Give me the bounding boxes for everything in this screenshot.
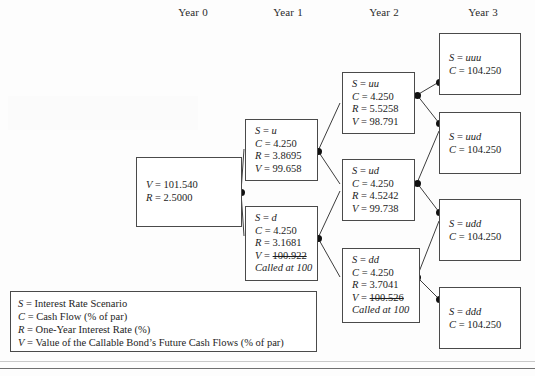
- node-u-r: R = 3.8695: [255, 150, 317, 163]
- node-ud-c: C = 4.250: [352, 178, 414, 191]
- diagram-canvas: Year 0 Year 1 Year 2 Year 3 V = 101.540: [0, 0, 535, 376]
- node-dd[interactable]: S = dd C = 4.250 R = 3.7041 V = 100.526 …: [342, 248, 420, 323]
- node-d-v: V = 100.922: [255, 250, 317, 263]
- node-udd-c: C = 104.250: [449, 231, 520, 244]
- node-uu-r: R = 5.5258: [352, 103, 414, 116]
- node-uu-c: C = 4.250: [352, 91, 414, 104]
- legend-row-s: S = Interest Rate Scenario: [18, 297, 316, 310]
- node-uuu-c: C = 104.250: [449, 65, 520, 78]
- column-header-year-2: Year 2: [339, 6, 429, 18]
- node-dd-call-note: Called at 100: [352, 304, 419, 317]
- node-u-v: V = 99.658: [255, 163, 317, 176]
- legend-row-c: C = Cash Flow (% of par): [18, 310, 316, 323]
- node-dd-s: S = dd: [352, 254, 419, 267]
- legend-box: S = Interest Rate Scenario C = Cash Flow…: [10, 291, 317, 352]
- node-ddd-c: C = 104.250: [449, 319, 520, 332]
- node-udd-s: S = udd: [449, 218, 520, 231]
- node-uud-s: S = uud: [449, 131, 520, 144]
- node-u-s: S = u: [255, 125, 317, 138]
- node-ddd[interactable]: S = ddd C = 104.250: [439, 287, 521, 349]
- node-root-r: R = 2.5000: [146, 192, 241, 205]
- node-ud-r: R = 4.5242: [352, 190, 414, 203]
- node-d-s: S = d: [255, 212, 317, 225]
- column-header-year-0: Year 0: [148, 6, 238, 18]
- node-d[interactable]: S = d C = 4.250 R = 3.1681 V = 100.922 C…: [245, 206, 318, 281]
- node-uud[interactable]: S = uud C = 104.250: [439, 112, 521, 174]
- node-udd[interactable]: S = udd C = 104.250: [439, 199, 521, 261]
- scan-bleed-artifact: [8, 96, 198, 130]
- branch-dot-uu: [414, 92, 421, 99]
- node-uu[interactable]: S = uu C = 4.250 R = 5.5258 V = 98.791: [342, 72, 415, 134]
- node-uuu-s: S = uuu: [449, 52, 520, 65]
- node-u-c: C = 4.250: [255, 138, 317, 151]
- node-u[interactable]: S = u C = 4.250 R = 3.8695 V = 99.658: [245, 119, 318, 181]
- node-ud-v: V = 99.738: [352, 203, 414, 216]
- node-d-call-note: Called at 100: [255, 262, 317, 275]
- node-uuu[interactable]: S = uuu C = 104.250: [439, 33, 521, 95]
- node-uud-c: C = 104.250: [449, 144, 520, 157]
- node-d-c: C = 4.250: [255, 225, 317, 238]
- node-ddd-s: S = ddd: [449, 306, 520, 319]
- node-uu-v: V = 98.791: [352, 116, 414, 129]
- node-dd-v: V = 100.526: [352, 292, 419, 305]
- node-uu-s: S = uu: [352, 78, 414, 91]
- legend-row-r: R = One-Year Interest Rate (%): [18, 323, 316, 336]
- branch-dot-ud: [414, 180, 421, 187]
- node-d-r: R = 3.1681: [255, 237, 317, 250]
- node-ud[interactable]: S = ud C = 4.250 R = 4.5242 V = 99.738: [342, 159, 415, 221]
- node-dd-c: C = 4.250: [352, 267, 419, 280]
- node-root[interactable]: V = 101.540 R = 2.5000: [136, 157, 242, 227]
- legend-row-v: V = Value of the Callable Bond’s Future …: [18, 336, 316, 349]
- page-rule-lower: [0, 368, 535, 369]
- node-ud-s: S = ud: [352, 165, 414, 178]
- node-root-v: V = 101.540: [146, 179, 241, 192]
- node-dd-r: R = 3.7041: [352, 279, 419, 292]
- page-rule-upper: [0, 361, 535, 362]
- column-header-year-3: Year 3: [438, 6, 528, 18]
- column-header-year-1: Year 1: [243, 6, 333, 18]
